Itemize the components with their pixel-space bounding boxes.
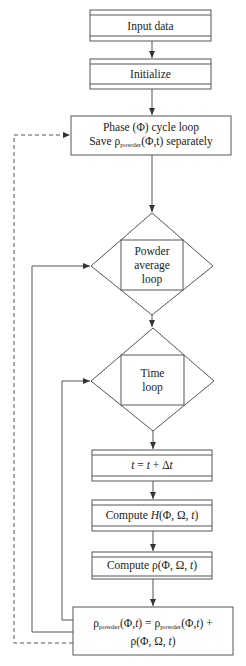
time-step-label: t = t + Δt — [92, 458, 212, 472]
var-h: H — [151, 509, 159, 521]
label-line: average — [121, 258, 183, 272]
text: ) — [193, 559, 197, 571]
text: = — [134, 459, 146, 471]
phase-label-line2: Save ρpowder(Φ,t) separately — [71, 134, 231, 152]
time-loop-label: Time loop — [121, 366, 184, 394]
label-line: loop — [121, 272, 183, 286]
label-line: loop — [121, 380, 184, 394]
input-data-label: Input data — [90, 19, 211, 33]
subscript: powder — [99, 623, 120, 631]
text: ρ(Φ, Ω, — [130, 635, 168, 647]
inner-loop-return-arrow — [62, 381, 90, 620]
text: ) + — [200, 617, 213, 629]
outer-loop-return-arrow — [32, 266, 90, 632]
var-t: t — [170, 459, 173, 471]
text: (Φ, — [181, 617, 196, 629]
text: ) = ρ — [138, 617, 160, 629]
compute-rho-label: Compute ρ(Φ, Ω, t) — [92, 558, 212, 572]
subscript: powder — [160, 623, 181, 631]
accumulate-line1: ρpowder(Φ,t) = ρpowder(Φ,t) + — [73, 616, 233, 634]
text: (Φ,t) separately — [141, 135, 213, 147]
powder-loop-label: Powder average loop — [121, 244, 183, 286]
accumulate-line2: ρ(Φ, Ω, t) — [73, 634, 233, 648]
phase-label: Phase (Φ) cycle loop Save ρpowder(Φ,t) s… — [71, 120, 231, 152]
text: + Δ — [150, 459, 170, 471]
subscript: powder — [120, 141, 141, 149]
compute-h-label: Compute H(Φ, Ω, t) — [92, 508, 212, 522]
text: (Φ, — [120, 617, 135, 629]
label-line: Time — [121, 366, 184, 380]
accumulate-label: ρpowder(Φ,t) = ρpowder(Φ,t) + ρ(Φ, Ω, t) — [73, 616, 233, 648]
text: (Φ, Ω, — [159, 509, 191, 521]
text: ) — [172, 635, 176, 647]
text: Save ρ — [89, 135, 120, 147]
text: Compute ρ(Φ, Ω, — [107, 559, 190, 571]
phase-label-line1: Phase (Φ) cycle loop — [71, 120, 231, 134]
text: ) — [195, 509, 199, 521]
phase-loop-return-dashed-arrow — [14, 135, 73, 643]
initialize-label: Initialize — [90, 67, 211, 81]
text: Compute — [106, 509, 151, 521]
label-line: Powder — [121, 244, 183, 258]
